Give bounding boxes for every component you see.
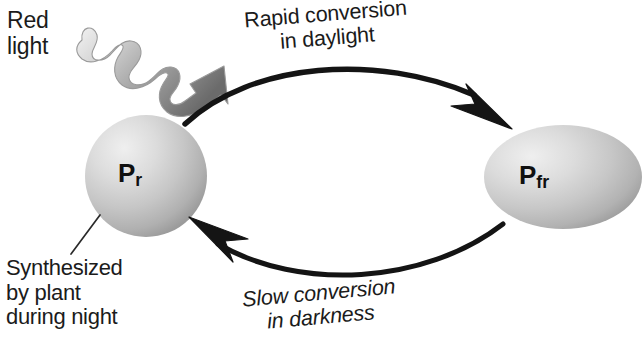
red-light-line2: light [7, 33, 48, 59]
pfr-subscript: fr [536, 172, 549, 192]
pfr-symbol: P [519, 160, 536, 190]
leader-line-icon [71, 215, 100, 254]
red-light-line1: Red [7, 7, 49, 33]
pfr-sphere [484, 125, 642, 229]
phytochrome-diagram: Redlight Rapid conversionin daylight Slo… [0, 0, 644, 356]
red-light-label: Redlight [7, 8, 49, 60]
wavy-light-arrow-icon [77, 28, 228, 116]
pr-sphere [85, 115, 207, 237]
curved-arrow-right-icon [185, 69, 512, 129]
pr-label: Pr [118, 158, 142, 189]
curved-arrow-left-icon [189, 217, 503, 275]
synthesized-line1: Synthesized [6, 255, 123, 280]
synthesized-line2: by plant [6, 280, 81, 305]
pr-subscript: r [135, 170, 142, 190]
synthesized-line3: during night [6, 304, 117, 329]
pfr-label: Pfr [519, 160, 549, 191]
pr-symbol: P [118, 158, 135, 188]
synthesized-label: Synthesizedby plantduring night [6, 256, 123, 330]
